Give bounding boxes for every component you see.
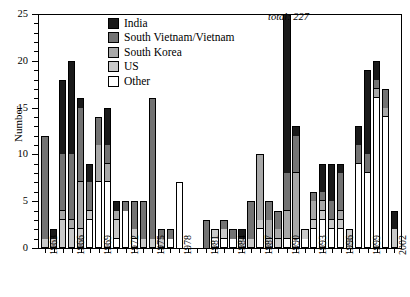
y-tick-label: 0 [2,243,28,254]
bar-1986 [247,201,254,248]
bar-segment-us [59,220,66,248]
x-tick-label-1990: 1990 [291,235,301,255]
x-tick [278,249,279,253]
bar-segment-south-korea [68,220,75,229]
x-tick [63,249,64,253]
bar-segment-india [337,164,344,173]
x-tick [386,249,387,253]
bar-segment-south-korea [113,211,120,220]
x-tick-label-1978: 1978 [183,235,193,255]
bar-segment-south-korea [292,173,299,239]
bar-1990 [283,14,290,248]
bar-1963 [41,136,48,248]
x-tick-label-1963: 1963 [49,235,59,255]
y-tick-label: 15 [2,103,28,114]
x-tick [341,249,342,253]
bar-1995 [328,164,335,248]
legend-label: Other [124,76,150,88]
bar-segment-south-korea [59,211,66,220]
x-tick-label-1966: 1966 [76,235,86,255]
bar-segment-india [373,61,380,80]
bar-segment-south-vietnam-vietnam [140,201,147,238]
bar-segment-us [140,239,147,248]
bar-segment-other [86,220,93,248]
bar-1987 [256,154,263,248]
bar-segment-south-korea [319,201,326,210]
bar-segment-south-vietnam-vietnam [95,117,102,145]
bar-1965 [59,80,66,248]
chart-root: Number 0510152025 1963196619691972197519… [0,0,410,297]
bar-segment-india [328,164,335,201]
bar-segment-south-korea [310,201,317,220]
bar-segment-south-vietnam-vietnam [364,154,371,173]
bar-1992 [301,229,308,248]
bar-segment-south-vietnam-vietnam [319,192,326,201]
bar-segment-other [373,98,380,248]
bar-2001 [382,89,389,248]
x-tick-label-1999: 1999 [372,235,382,255]
bar-segment-south-vietnam-vietnam [59,154,66,210]
x-tick-label-2002: 2002 [398,235,408,255]
legend-item-south-vietnam-vietnam: South Vietnam/Vietnam [108,31,235,46]
bar-segment-us [220,229,227,238]
bar-segment-south-vietnam-vietnam [283,173,290,210]
x-tick [305,249,306,253]
bar-1967 [77,98,84,248]
bar-segment-us [256,220,263,229]
x-tick [287,249,288,253]
bar-1971 [113,201,120,248]
x-tick [152,249,153,253]
bar-segment-india [77,98,84,107]
bar-1999 [364,70,371,248]
bar-segment-south-korea [256,154,263,220]
legend-label: South Korea [124,47,182,59]
bar-segment-south-korea [373,89,380,98]
legend-item-south-korea: South Korea [108,45,235,60]
bar-segment-south-vietnam-vietnam [355,145,362,164]
x-tick [233,249,234,253]
bar-segment-india [319,164,326,192]
legend-item-us: US [108,60,235,75]
bar-segment-us [247,239,254,248]
x-tick [394,249,395,253]
x-tick-label-1972: 1972 [130,235,140,255]
bar-segment-south-korea [95,145,102,182]
bar-segment-us [86,211,93,220]
legend-label: India [124,18,148,30]
y-tick-label: 25 [2,9,28,20]
bar-segment-india [59,80,66,155]
legend-item-india: India [108,16,235,31]
bar-segment-other [301,239,308,248]
x-tick [197,249,198,253]
bar-segment-us [274,239,281,248]
bar-1975 [149,98,156,248]
bar-segment-us [328,220,335,229]
bar-segment-other [328,229,335,248]
bar-segment-south-vietnam-vietnam [167,229,174,238]
bar-segment-south-vietnam-vietnam [310,192,317,201]
legend: IndiaSouth Vietnam/VietnamSouth KoreaUSO… [108,16,235,89]
bar-segment-south-vietnam-vietnam [41,136,48,239]
bar-segment-us [337,220,344,229]
bar-segment-south-vietnam-vietnam [328,201,335,220]
bar-segment-other [382,117,389,248]
bar-1991 [292,126,299,248]
y-tick-label: 20 [2,56,28,67]
bar-segment-india [391,211,398,230]
bar-segment-us [113,220,120,239]
bar-segment-south-vietnam-vietnam [131,201,138,229]
x-tick [260,249,261,253]
bar-segment-india [104,108,111,145]
bar-segment-south-vietnam-vietnam [337,173,344,210]
bar-segment-south-vietnam-vietnam [373,80,380,89]
bar-segment-india [292,126,299,135]
bar-segment-south-vietnam-vietnam [247,201,254,238]
bar-1983 [220,220,227,248]
x-tick [99,249,100,253]
x-tick-label-1975: 1975 [156,235,166,255]
bar-1969 [95,117,102,248]
legend-swatch-icon [108,47,119,58]
bar-segment-south-vietnam-vietnam [220,220,227,229]
y-tick-label: 5 [2,196,28,207]
bar-segment-south-vietnam-vietnam [274,211,281,230]
